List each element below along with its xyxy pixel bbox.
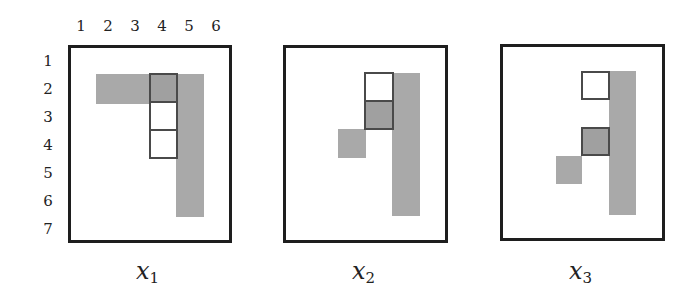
outlined-cell-empty [149, 101, 178, 131]
outlined-cell-shaded [364, 100, 394, 130]
panel-label-x1: x1 [136, 257, 159, 287]
outlined-cell-empty [581, 71, 610, 100]
column-tick: 5 [179, 17, 199, 35]
grid-panel-x3 [500, 44, 665, 241]
outlined-cell-empty [149, 129, 178, 159]
shaded-cell [556, 156, 582, 184]
row-tick: 6 [38, 192, 58, 210]
panel-label-x3: x3 [569, 257, 592, 287]
grid-panel-x2 [283, 45, 448, 243]
label-subscript: 1 [150, 269, 160, 287]
column-tick: 6 [206, 17, 226, 35]
column-tick: 4 [152, 17, 172, 35]
label-subscript: 3 [583, 269, 593, 287]
outlined-cell-empty [364, 72, 394, 102]
row-tick: 1 [38, 52, 58, 70]
label-variable: x [569, 257, 583, 285]
row-tick: 7 [38, 220, 58, 238]
row-tick: 3 [38, 108, 58, 126]
column-tick: 3 [125, 17, 145, 35]
row-tick: 2 [38, 80, 58, 98]
column-tick: 2 [98, 17, 118, 35]
grid-panel-x1 [68, 45, 232, 243]
shaded-vertical-bar [609, 71, 636, 215]
row-tick: 5 [38, 164, 58, 182]
shaded-vertical-bar [176, 74, 204, 217]
outlined-cell-shaded [149, 73, 178, 103]
column-tick: 1 [71, 17, 91, 35]
label-variable: x [136, 257, 150, 285]
label-subscript: 2 [366, 269, 376, 287]
row-tick: 4 [38, 136, 58, 154]
shaded-cell [338, 129, 366, 158]
shaded-vertical-bar [392, 73, 420, 216]
label-variable: x [352, 257, 366, 285]
outlined-cell-shaded [581, 127, 610, 156]
panel-label-x2: x2 [352, 257, 375, 287]
